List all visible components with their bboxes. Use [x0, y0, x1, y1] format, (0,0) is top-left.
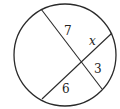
- segment-label-6: 6: [62, 82, 70, 96]
- diagram-canvas: 7 x 3 6: [0, 0, 120, 109]
- segment-label-7: 7: [64, 24, 72, 38]
- segment-label-3: 3: [94, 62, 102, 76]
- intersecting-chords-diagram: 7 x 3 6: [0, 0, 120, 109]
- segment-label-x: x: [89, 34, 96, 48]
- chord-1: [41, 9, 102, 89]
